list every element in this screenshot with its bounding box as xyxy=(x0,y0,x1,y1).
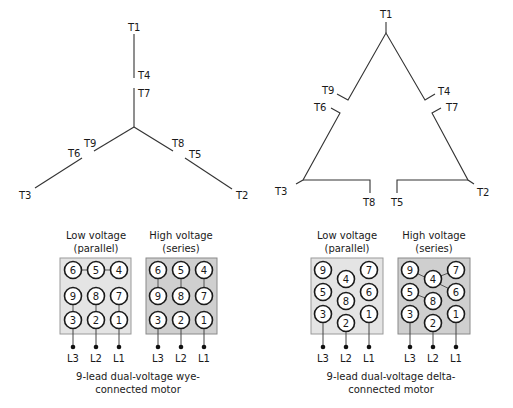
wye-label-t2: T2 xyxy=(235,190,248,201)
delta-label-t6: T6 xyxy=(313,102,326,113)
delta-high-terminals: 9 4 7 5 8 6 3 2 1 xyxy=(402,262,465,332)
delta-winding-top xyxy=(337,33,435,100)
delta-winding-right xyxy=(432,108,474,184)
wye-winding-center-t9 xyxy=(94,127,134,151)
wye-low-title-line1: Low voltage xyxy=(66,230,126,241)
lead-terminal-dot xyxy=(344,345,349,350)
terminal-number: 5 xyxy=(93,265,99,276)
terminal-number: 7 xyxy=(116,291,122,302)
wye-low-title-line2: (parallel) xyxy=(73,243,118,254)
wye-label-t4: T4 xyxy=(137,70,150,81)
wye-winding-diagram: T1 T4 T7 T9 T6 T3 T8 T5 T2 xyxy=(18,22,248,201)
lead-terminal-dot xyxy=(156,345,161,350)
terminal-number: 8 xyxy=(430,296,436,307)
terminal-number: 2 xyxy=(93,315,99,326)
lead-label-l3: L3 xyxy=(152,353,164,364)
wye-low-terminals: 6 5 4 9 8 7 3 2 1 xyxy=(65,262,128,329)
delta-label-t3: T3 xyxy=(274,186,287,197)
terminal-number: 3 xyxy=(70,315,76,326)
lead-label-l2: L2 xyxy=(427,353,439,364)
terminal-number: 7 xyxy=(453,265,459,276)
terminal-number: 5 xyxy=(320,287,326,298)
lead-terminal-dot xyxy=(431,345,436,350)
delta-caption-line2: connected motor xyxy=(348,384,434,395)
terminal-number: 4 xyxy=(430,274,436,285)
terminal-number: 9 xyxy=(320,265,326,276)
wye-label-t9: T9 xyxy=(83,138,96,149)
terminal-number: 3 xyxy=(320,309,326,320)
terminal-number: 6 xyxy=(366,287,372,298)
lead-label-l2: L2 xyxy=(340,353,352,364)
lead-terminal-dot xyxy=(202,345,207,350)
delta-label-t5: T5 xyxy=(390,197,403,208)
wye-terminal-boxes: Low voltage (parallel) High voltage (ser… xyxy=(60,230,217,395)
delta-label-t4: T4 xyxy=(437,86,450,97)
delta-label-t2: T2 xyxy=(476,187,489,198)
wye-high-title-line2: (series) xyxy=(162,243,200,254)
wye-label-t6: T6 xyxy=(67,148,80,159)
delta-winding-left xyxy=(296,108,340,184)
wye-label-t8: T8 xyxy=(171,138,184,149)
terminal-number: 1 xyxy=(201,315,207,326)
lead-terminal-dot xyxy=(367,345,372,350)
wye-high-title-line1: High voltage xyxy=(149,230,213,241)
lead-terminal-dot xyxy=(454,345,459,350)
lead-label-l1: L1 xyxy=(363,353,375,364)
lead-label-l1: L1 xyxy=(198,353,210,364)
motor-connection-diagram: T1 T4 T7 T9 T6 T3 T8 T5 T2 T1 T9 T4 T6 T… xyxy=(0,0,513,408)
delta-high-title-line1: High voltage xyxy=(402,230,466,241)
delta-low-title-line2: (parallel) xyxy=(324,243,369,254)
lead-label-l2: L2 xyxy=(90,353,102,364)
delta-caption-line1: 9-lead dual-voltage delta- xyxy=(327,371,456,382)
lead-terminal-dot xyxy=(179,345,184,350)
terminal-number: 6 xyxy=(70,265,76,276)
delta-high-title-line2: (series) xyxy=(415,243,453,254)
wye-high-terminals: 6 5 4 9 8 7 3 2 1 xyxy=(150,262,213,329)
delta-label-t7: T7 xyxy=(445,102,458,113)
delta-winding-bottom-left xyxy=(303,180,370,193)
terminal-number: 2 xyxy=(430,318,436,329)
lead-label-l1: L1 xyxy=(450,353,462,364)
terminal-number: 9 xyxy=(70,291,76,302)
terminal-number: 3 xyxy=(407,309,413,320)
terminal-number: 5 xyxy=(178,265,184,276)
lead-terminal-dot xyxy=(321,345,326,350)
terminal-number: 8 xyxy=(93,291,99,302)
terminal-number: 1 xyxy=(116,315,122,326)
terminal-number: 4 xyxy=(201,265,207,276)
terminal-number: 1 xyxy=(366,309,372,320)
lead-label-l3: L3 xyxy=(67,353,79,364)
lead-label-l3: L3 xyxy=(317,353,329,364)
terminal-number: 4 xyxy=(116,265,122,276)
lead-terminal-dot xyxy=(71,345,76,350)
wye-winding-center-t8 xyxy=(134,127,173,151)
terminal-number: 9 xyxy=(155,291,161,302)
wye-label-t5: T5 xyxy=(188,149,201,160)
terminal-number: 2 xyxy=(343,318,349,329)
lead-label-l2: L2 xyxy=(175,353,187,364)
lead-terminal-dot xyxy=(408,345,413,350)
terminal-number: 7 xyxy=(366,265,372,276)
lead-terminal-dot xyxy=(94,345,99,350)
delta-label-t1: T1 xyxy=(379,9,392,20)
terminal-number: 2 xyxy=(178,315,184,326)
terminal-number: 6 xyxy=(155,265,161,276)
terminal-number: 5 xyxy=(407,287,413,298)
wye-label-t3: T3 xyxy=(18,190,31,201)
lead-label-l3: L3 xyxy=(404,353,416,364)
wye-label-t1: T1 xyxy=(127,22,140,33)
terminal-number: 4 xyxy=(343,274,349,285)
delta-terminal-boxes: Low voltage (parallel) High voltage (ser… xyxy=(311,230,470,395)
lead-terminal-dot xyxy=(117,345,122,350)
terminal-number: 8 xyxy=(343,296,349,307)
delta-label-t9: T9 xyxy=(321,85,334,96)
terminal-number: 9 xyxy=(407,265,413,276)
delta-low-terminals: 9 4 7 5 8 6 3 2 1 xyxy=(315,262,378,332)
wye-caption-line1: 9-lead dual-voltage wye- xyxy=(76,371,200,382)
wye-label-t7: T7 xyxy=(137,88,150,99)
terminal-number: 3 xyxy=(155,315,161,326)
terminal-number: 6 xyxy=(453,287,459,298)
terminal-number: 1 xyxy=(453,309,459,320)
lead-label-l1: L1 xyxy=(113,353,125,364)
wye-caption-line2: connected motor xyxy=(95,384,181,395)
